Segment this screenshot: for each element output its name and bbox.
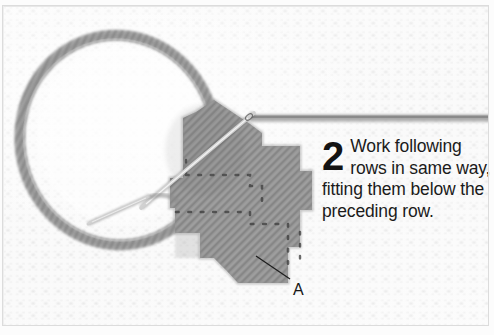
instruction-caption: 2Work following rows in same way, fittin… (322, 136, 494, 222)
annotation-label-a: A (293, 281, 304, 299)
instruction-text: Work following rows in same way, fitting… (322, 136, 494, 222)
needlework-figure: 2Work following rows in same way, fittin… (0, 0, 494, 335)
photo-plate: 2Work following rows in same way, fittin… (0, 0, 494, 335)
step-number: 2 (322, 138, 343, 174)
working-thread (250, 114, 492, 123)
